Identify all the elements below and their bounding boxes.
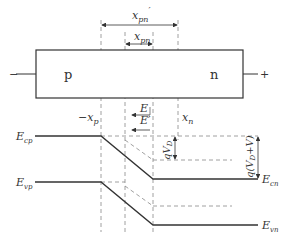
neg-xp-label: −xp xyxy=(78,111,99,126)
pn-junction-diagram: xpn′ xpn − + p n −xp xn E E′ Ecp Evp Ecn… xyxy=(0,0,286,248)
x-pn-prime-dimension: xpn′ xyxy=(102,6,177,25)
svg-text:xpn: xpn xyxy=(134,30,151,45)
svg-text:E′: E′ xyxy=(139,114,151,127)
field-E-prime: E′ xyxy=(132,114,151,130)
Ecn-label: Ecn xyxy=(261,173,279,188)
Evn-label: Evn xyxy=(261,219,279,234)
svg-text:xpn′: xpn′ xyxy=(132,6,151,24)
valence-band xyxy=(35,182,258,225)
left-terminal-sign: − xyxy=(9,68,18,81)
Evp-label: Evp xyxy=(15,176,33,191)
Ecp-label: Ecp xyxy=(15,130,33,145)
svg-text:q(VD+V): q(VD+V) xyxy=(244,135,257,178)
p-region-label: p xyxy=(64,67,72,82)
barrier-qVD-plus-V: q(VD+V) xyxy=(244,135,258,178)
conduction-band xyxy=(35,136,258,179)
equilibrium-bands xyxy=(101,136,258,206)
svg-text:qVD: qVD xyxy=(161,140,174,160)
right-terminal-sign: + xyxy=(260,68,269,81)
n-region-label: n xyxy=(210,67,219,82)
barrier-qVD: qVD xyxy=(161,137,175,160)
x-pn-dimension: xpn xyxy=(126,30,152,45)
xn-label: xn xyxy=(182,111,193,126)
